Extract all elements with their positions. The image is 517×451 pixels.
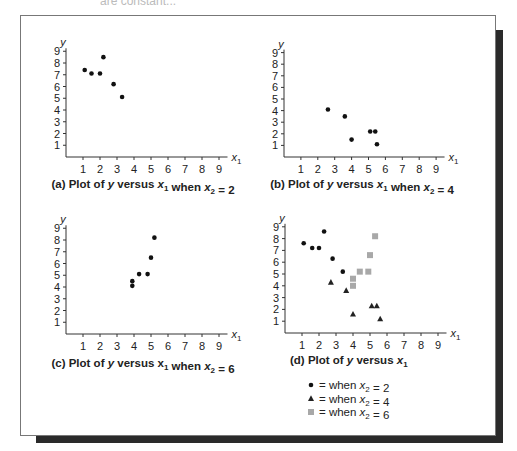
x-tick-label: 7 (401, 339, 407, 351)
x-tick-label: 4 (349, 163, 355, 175)
series-x24 (326, 107, 380, 146)
y-tick-label: 6 (273, 256, 279, 268)
y-tick-label: 5 (273, 268, 279, 280)
data-point (101, 55, 106, 60)
x-tick-label: 6 (384, 339, 390, 351)
y-tick-label: 8 (54, 234, 60, 246)
data-point (130, 279, 135, 284)
series-x26 (130, 235, 157, 288)
x-tick-label: 6 (382, 163, 388, 175)
data-point (343, 114, 348, 119)
data-point (111, 82, 116, 87)
x-tick-label: 6 (165, 163, 171, 175)
x-tick-label: 2 (316, 339, 322, 351)
data-point (375, 142, 380, 147)
x-tick-label: 9 (433, 163, 439, 175)
data-point (145, 272, 150, 277)
y-tick-label: 1 (54, 316, 60, 328)
legend: = when x2 = 2= when x2 = 4= when x2 = 6 (308, 379, 390, 421)
y-tick-label: 1 (54, 139, 60, 151)
data-point (310, 246, 315, 251)
series-x26 (350, 233, 378, 289)
x-tick-label: 8 (199, 163, 205, 175)
caption-text: when (168, 181, 204, 193)
y-axis-label: y (59, 213, 67, 225)
data-point (341, 269, 346, 274)
data-point (373, 129, 378, 134)
x-axis-label-subscript: 1 (237, 157, 242, 166)
caption-text: versus x (114, 357, 164, 369)
series-x22 (82, 55, 124, 100)
data-point (149, 255, 154, 260)
caption-text: = 6 (370, 409, 390, 421)
y-tick-label: 6 (272, 81, 278, 93)
scatter-plot-b: 123456789123456789yx1(b) Plot of y versu… (270, 38, 459, 196)
data-point (120, 95, 125, 100)
data-point (368, 129, 373, 134)
data-point (377, 316, 383, 322)
y-tick-label: 7 (54, 246, 60, 258)
x-tick-label: 9 (216, 340, 222, 352)
y-tick-label: 4 (54, 104, 60, 116)
caption-text: (d) Plot of (290, 354, 347, 366)
y-tick-label: 3 (272, 116, 278, 128)
x-tick-label: 7 (182, 340, 188, 352)
y-tick-label: 4 (273, 280, 279, 292)
data-point (369, 303, 375, 309)
legend-marker-square (308, 409, 314, 415)
y-axis-label: y (59, 36, 67, 48)
y-tick-label: 1 (272, 139, 278, 151)
y-tick-label: 9 (54, 45, 60, 57)
caption-text: (c) Plot of (51, 357, 107, 369)
data-point (322, 229, 327, 234)
x-tick-label: 1 (299, 339, 305, 351)
y-tick-label: 3 (273, 292, 279, 304)
y-tick-label: 5 (272, 93, 278, 105)
caption-text: = 6 (215, 363, 235, 375)
data-point (374, 303, 380, 309)
y-tick-label: 4 (272, 105, 278, 117)
data-point (317, 246, 322, 251)
y-tick-label: 8 (54, 57, 60, 69)
y-tick-label: 2 (272, 128, 278, 140)
caption-text: = when (319, 379, 360, 391)
data-point (367, 252, 373, 258)
x-tick-label: 5 (365, 163, 371, 175)
y-tick-label: 7 (272, 70, 278, 82)
x-tick-label: 9 (435, 339, 441, 351)
y-tick-label: 9 (273, 221, 279, 233)
caption-text: when (388, 181, 424, 193)
y-tick-label: 2 (54, 128, 60, 140)
data-point (350, 276, 356, 282)
x-axis-label: x1 (448, 151, 460, 166)
x-tick-label: 6 (165, 340, 171, 352)
data-point (82, 68, 87, 73)
caption-text: (b) Plot of (270, 178, 327, 190)
series-x22 (301, 229, 345, 274)
y-tick-label: 6 (54, 81, 60, 93)
x-tick-label: 5 (148, 340, 154, 352)
x-axis-label: x1 (450, 327, 462, 342)
x-tick-label: 4 (350, 339, 356, 351)
data-point (350, 311, 356, 317)
y-tick-label: 1 (273, 315, 279, 327)
legend-marker-circle (309, 383, 314, 388)
data-point (152, 235, 157, 240)
data-point (343, 287, 349, 293)
chart-caption: (b) Plot of y versus x1 when x2 = 4 (270, 178, 454, 196)
y-tick-label: 4 (54, 281, 60, 293)
data-point (326, 107, 331, 112)
caption-text: = 2 (370, 382, 390, 394)
x-tick-label: 1 (80, 163, 86, 175)
x-tick-label: 8 (416, 163, 422, 175)
x-tick-label: 4 (131, 163, 137, 175)
caption-text: (a) Plot of (51, 178, 107, 190)
x-tick-label: 3 (114, 163, 120, 175)
data-point (301, 241, 306, 246)
y-tick-label: 8 (272, 58, 278, 70)
y-tick-label: 9 (54, 222, 60, 234)
x-tick-label: 1 (298, 163, 304, 175)
caption-text: = when (319, 393, 360, 405)
scatter-plot-d: 123456789123456789yx1(d) Plot of y versu… (273, 212, 461, 421)
legend-label: = when x2 = 6 (319, 406, 389, 421)
